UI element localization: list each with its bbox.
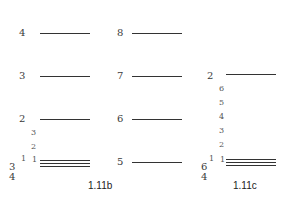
level-label-8: 8 bbox=[117, 28, 123, 38]
level-label-6: 6 bbox=[117, 114, 123, 124]
ground-level-c-line-3 bbox=[226, 165, 276, 166]
level-label-c-2: 2 bbox=[207, 71, 213, 81]
energy-level-4 bbox=[40, 33, 90, 34]
stack-label-3: 3 bbox=[31, 129, 36, 137]
ground-label-c-1b: 1 bbox=[220, 156, 225, 164]
ground-sub-label-4: 4 bbox=[9, 172, 15, 182]
ground-sub-label-c-4: 4 bbox=[201, 172, 207, 182]
ground-level-c-line-2 bbox=[226, 162, 276, 163]
energy-level-c-2 bbox=[226, 74, 276, 75]
stack-label-c-4: 4 bbox=[219, 113, 224, 121]
caption-1-11b: 1.11b bbox=[88, 180, 112, 191]
stack-label-c-2: 2 bbox=[219, 141, 224, 149]
ground-level-line-1 bbox=[40, 160, 90, 161]
energy-level-5 bbox=[132, 162, 182, 163]
level-label-2: 2 bbox=[19, 114, 25, 124]
energy-level-2 bbox=[40, 119, 90, 120]
level-label-7: 7 bbox=[117, 71, 123, 81]
ground-level-line-3 bbox=[40, 166, 90, 167]
stack-label-c-3: 3 bbox=[219, 127, 224, 135]
energy-level-7 bbox=[132, 76, 182, 77]
ground-label-1a: 1 bbox=[21, 155, 26, 163]
stack-label-2: 2 bbox=[31, 143, 36, 151]
level-label-3: 3 bbox=[19, 71, 25, 81]
stack-label-c-5: 5 bbox=[219, 99, 224, 107]
ground-label-1b: 1 bbox=[32, 156, 37, 164]
level-label-4: 4 bbox=[19, 28, 25, 38]
level-label-5: 5 bbox=[117, 157, 123, 167]
stack-label-c-6: 6 bbox=[219, 85, 224, 93]
ground-label-c-1a: 1 bbox=[209, 155, 214, 163]
ground-level-line-2 bbox=[40, 163, 90, 164]
ground-level-c-line-1 bbox=[226, 159, 276, 160]
energy-level-3 bbox=[40, 76, 90, 77]
energy-level-8 bbox=[132, 33, 182, 34]
energy-level-6 bbox=[132, 119, 182, 120]
caption-1-11c: 1.11c bbox=[233, 180, 257, 191]
